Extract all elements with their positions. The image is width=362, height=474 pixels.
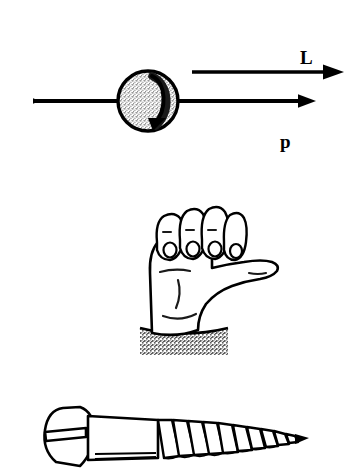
right-hand-drawing	[0, 180, 362, 390]
physics-figure: L p	[0, 0, 362, 474]
angular-momentum-arrow	[192, 65, 344, 80]
spinning-ball	[118, 71, 178, 131]
angular-momentum-label: L	[300, 48, 313, 67]
panel-right-hand: R.H.	[0, 180, 362, 390]
spinning-ball-drawing	[0, 20, 362, 170]
panel-screw	[0, 390, 362, 474]
screw-drawing	[0, 390, 362, 474]
panel-spinning-ball: L p	[0, 20, 362, 170]
thumb-crease	[249, 273, 266, 274]
momentum-label: p	[280, 132, 291, 151]
